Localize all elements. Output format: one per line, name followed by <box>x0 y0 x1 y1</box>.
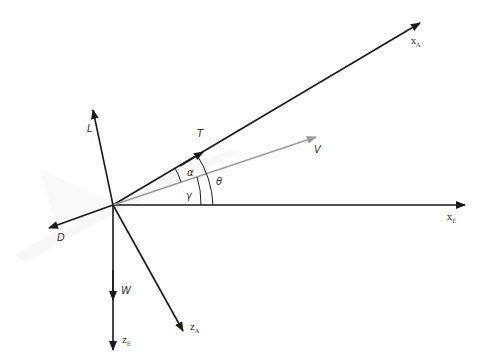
drag-label: D <box>57 232 65 243</box>
alpha-label: α <box>187 167 194 178</box>
diagram-canvas: L T V D W α γ θ xA xE zA zE <box>0 0 481 364</box>
zA-axis <box>113 205 183 331</box>
zE-label: zE <box>122 335 131 347</box>
gamma-label: γ <box>186 190 193 201</box>
lift-arrow <box>93 110 113 205</box>
gamma-arc <box>197 177 201 205</box>
force-diagram: L T V D W α γ θ xA xE zA zE <box>0 0 481 364</box>
aircraft-silhouette <box>15 150 240 262</box>
theta-label: θ <box>216 176 222 187</box>
xE-label: xE <box>447 212 456 224</box>
weight-label: W <box>121 285 132 296</box>
xA-axis <box>113 23 420 205</box>
xA-label: xA <box>411 36 421 48</box>
velocity-arrow <box>113 137 316 205</box>
thrust-label: T <box>197 128 204 139</box>
velocity-label: V <box>314 144 322 155</box>
zA-label: zA <box>190 322 200 334</box>
lift-label: L <box>87 123 93 134</box>
